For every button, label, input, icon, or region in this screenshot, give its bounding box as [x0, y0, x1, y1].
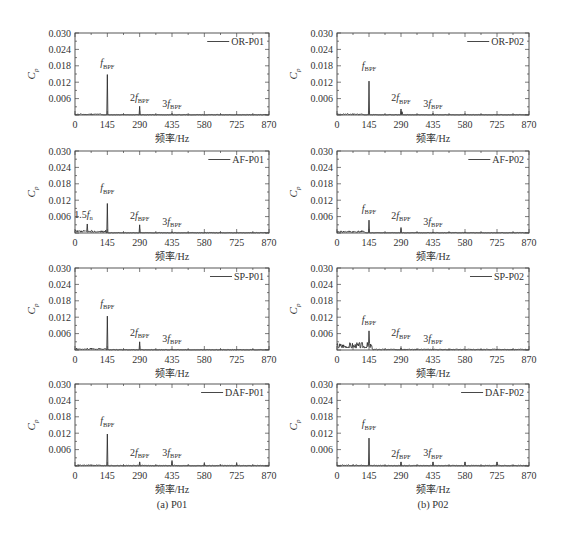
x-tick-label: 290 [394, 354, 409, 365]
y-tick-label: 0.006 [311, 444, 334, 455]
x-tick-label: 290 [132, 354, 147, 365]
x-tick-label: 580 [197, 119, 212, 130]
y-tick-label: 0.030 [49, 263, 72, 274]
figure-canvas: 0.0060.0120.0180.0240.030014529043558072… [0, 0, 564, 544]
x-tick-label: 725 [490, 354, 505, 365]
y-tick-label: 0.018 [49, 60, 72, 71]
y-tick-label: 0.006 [49, 444, 72, 455]
x-tick-label: 290 [132, 470, 147, 481]
y-tick-label: 0.012 [49, 312, 72, 323]
y-tick-label: 0.012 [49, 428, 72, 439]
x-tick-label: 725 [229, 119, 244, 130]
x-tick-label: 870 [262, 354, 277, 365]
y-axis-title: Cp [287, 419, 302, 430]
x-tick-label: 870 [262, 237, 277, 248]
y-tick-label: 0.030 [311, 146, 334, 157]
x-tick-label: 0 [73, 470, 78, 481]
y-tick-label: 0.030 [49, 28, 72, 39]
x-tick-label: 580 [458, 237, 473, 248]
x-axis-title: 频率/Hz [416, 367, 451, 379]
y-tick-label: 0.018 [311, 60, 334, 71]
x-tick-label: 0 [335, 354, 340, 365]
x-tick-label: 435 [426, 354, 441, 365]
chart-panel-daf-p01: 0.0060.0120.0180.0240.030014529043558072… [25, 379, 277, 496]
peak-annotation: 3fBPF [423, 447, 443, 460]
y-tick-label: 0.006 [49, 328, 72, 339]
y-tick-label: 0.030 [49, 146, 72, 157]
legend-label: SP-P02 [494, 271, 524, 282]
x-axis-title: 频率/Hz [155, 483, 190, 495]
x-tick-label: 435 [426, 237, 441, 248]
x-axis-title: 频率/Hz [155, 367, 190, 379]
x-tick-label: 0 [73, 354, 78, 365]
x-tick-label: 0 [335, 119, 340, 130]
x-tick-label: 580 [458, 354, 473, 365]
x-tick-label: 435 [165, 119, 180, 130]
x-tick-label: 145 [100, 237, 115, 248]
legend-label: DAF-P01 [225, 387, 264, 398]
x-tick-label: 290 [394, 470, 409, 481]
y-tick-label: 0.018 [49, 178, 72, 189]
chart-panel-sp-p02: 0.0060.0120.0180.0240.030014529043558072… [287, 263, 537, 380]
y-tick-label: 0.024 [311, 162, 334, 173]
x-tick-label: 580 [197, 237, 212, 248]
x-axis-title: 频率/Hz [416, 483, 451, 495]
y-tick-label: 0.024 [49, 279, 72, 290]
x-tick-label: 870 [262, 470, 277, 481]
y-tick-label: 0.024 [49, 162, 72, 173]
peak-annotation: 2fBPF [391, 92, 411, 105]
y-tick-label: 0.006 [49, 93, 72, 104]
x-tick-label: 435 [165, 470, 180, 481]
peak-annotation: 1.5fn [74, 209, 93, 222]
peak-annotation: 2fBPF [130, 327, 150, 340]
caption-p02: (b) P02 [373, 499, 493, 510]
chart-panel-sp-p01: 0.0060.0120.0180.0240.030014529043558072… [25, 263, 277, 380]
x-tick-label: 145 [362, 237, 377, 248]
y-tick-label: 0.012 [49, 77, 72, 88]
y-tick-label: 0.024 [311, 395, 334, 406]
x-axis-title: 频率/Hz [155, 250, 190, 262]
x-tick-label: 0 [335, 470, 340, 481]
legend-label: AF-P02 [492, 154, 524, 165]
peak-annotation: 2fBPF [391, 448, 411, 461]
x-tick-label: 290 [132, 119, 147, 130]
peak-annotation: fBPF [100, 182, 115, 195]
peak-annotation: 3fBPF [423, 98, 443, 111]
y-tick-label: 0.012 [311, 77, 334, 88]
y-axis-title: Cp [25, 303, 40, 314]
y-tick-label: 0.018 [311, 295, 334, 306]
y-axis-title: Cp [287, 303, 302, 314]
y-tick-label: 0.030 [311, 28, 334, 39]
x-tick-label: 870 [522, 119, 537, 130]
x-tick-label: 725 [490, 237, 505, 248]
y-tick-label: 0.006 [311, 211, 334, 222]
x-tick-label: 725 [490, 119, 505, 130]
spectrum-line [75, 434, 269, 466]
peak-annotation: fBPF [100, 57, 115, 70]
y-tick-label: 0.030 [49, 379, 72, 390]
x-tick-label: 145 [100, 119, 115, 130]
chart-panel-or-p01: 0.0060.0120.0180.0240.030014529043558072… [25, 28, 277, 145]
y-tick-label: 0.006 [311, 93, 334, 104]
x-tick-label: 435 [165, 237, 180, 248]
peak-annotation: 3fBPF [423, 216, 443, 229]
x-axis-title: 频率/Hz [155, 132, 190, 144]
y-axis-title: Cp [287, 186, 302, 197]
y-axis-title: Cp [287, 68, 302, 79]
peak-annotation: 2fBPF [130, 210, 150, 223]
y-tick-label: 0.006 [311, 328, 334, 339]
x-tick-label: 580 [197, 354, 212, 365]
peak-annotation: 3fBPF [423, 333, 443, 346]
y-axis-title: Cp [25, 419, 40, 430]
peak-annotation: fBPF [362, 203, 377, 216]
peak-annotation: fBPF [362, 314, 377, 327]
x-tick-label: 145 [100, 470, 115, 481]
y-tick-label: 0.018 [49, 295, 72, 306]
legend-label: AF-P01 [232, 154, 264, 165]
peak-annotation: fBPF [100, 415, 115, 428]
y-tick-label: 0.018 [49, 411, 72, 422]
y-tick-label: 0.024 [49, 395, 72, 406]
peak-annotation: 2fBPF [391, 327, 411, 340]
x-tick-label: 870 [262, 119, 277, 130]
x-axis-title: 频率/Hz [416, 132, 451, 144]
